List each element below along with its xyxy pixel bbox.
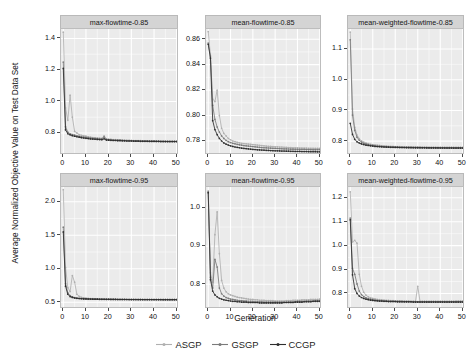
y-tick-label: 0.8 [318, 137, 342, 144]
x-tick-mark [394, 308, 395, 311]
gridlines [61, 187, 178, 308]
x-tick-label: 10 [220, 313, 240, 320]
y-tick-label: 1.1 [318, 217, 342, 224]
y-tick-mark [344, 48, 347, 49]
x-tick-label: 40 [429, 159, 449, 166]
x-tick-label: 20 [242, 159, 262, 166]
plot-canvas [206, 187, 321, 308]
x-tick-mark [207, 154, 208, 157]
x-tick-mark [274, 154, 275, 157]
legend-item-gsgp[interactable]: GSGP [212, 339, 258, 350]
x-tick-mark [349, 308, 350, 311]
y-tick-mark [344, 197, 347, 198]
y-tick-mark [202, 140, 205, 141]
plot-canvas [61, 187, 178, 308]
y-tick-mark [202, 245, 205, 246]
panel-title: max-flowtime-0.95 [60, 173, 178, 186]
x-tick-mark [439, 154, 440, 157]
x-tick-mark [274, 308, 275, 311]
x-tick-label: 10 [362, 313, 382, 320]
x-tick-mark [319, 154, 320, 157]
chart-legend: ASGPGSGPCCGP [0, 336, 472, 352]
panel-title: mean-weighted-flowtime-0.95 [347, 173, 464, 186]
legend-label: ASGP [175, 339, 201, 350]
y-tick-mark [202, 207, 205, 208]
y-tick-mark [57, 132, 60, 133]
x-tick-mark [252, 154, 253, 157]
x-tick-label: 0 [197, 313, 217, 320]
y-tick-mark [202, 64, 205, 65]
x-tick-label: 20 [242, 313, 262, 320]
gridlines [206, 187, 321, 308]
gridlines [348, 29, 464, 154]
x-tick-mark [462, 308, 463, 311]
x-tick-label: 40 [286, 159, 306, 166]
y-tick-label: 0.8 [35, 128, 55, 135]
x-tick-label: 40 [143, 313, 163, 320]
x-tick-mark [207, 308, 208, 311]
y-tick-mark [344, 140, 347, 141]
y-tick-label: 1.0 [35, 97, 55, 104]
y-tick-label: 0.86 [177, 35, 200, 42]
x-tick-mark [439, 308, 440, 311]
x-tick-label: 50 [166, 159, 186, 166]
y-tick-mark [344, 109, 347, 110]
x-tick-mark [319, 308, 320, 311]
y-tick-label: 0.9 [318, 265, 342, 272]
x-tick-label: 20 [384, 313, 404, 320]
x-tick-label: 0 [52, 159, 72, 166]
y-tick-label: 0.9 [177, 241, 200, 248]
y-axis-label: Average Normalized Objective Value on Te… [8, 8, 24, 318]
legend-item-asgp[interactable]: ASGP [156, 339, 201, 350]
x-tick-mark [130, 308, 131, 311]
panel-title: mean-flowtime-0.85 [205, 15, 321, 28]
x-tick-label: 30 [264, 313, 284, 320]
legend-item-ccgp[interactable]: CCGP [270, 339, 316, 350]
x-tick-label: 50 [452, 313, 472, 320]
plot-canvas [348, 187, 464, 308]
y-tick-mark [344, 245, 347, 246]
y-tick-label: 0.78 [177, 136, 200, 143]
y-tick-label: 0.8 [318, 289, 342, 296]
y-tick-label: 1.0 [318, 241, 342, 248]
x-tick-label: 0 [339, 159, 359, 166]
y-tick-mark [57, 234, 60, 235]
gridlines [206, 29, 321, 154]
chart-panel: mean-weighted-flowtime-0.85 [347, 15, 464, 154]
x-tick-mark [108, 308, 109, 311]
y-tick-label: 1.2 [318, 193, 342, 200]
x-tick-label: 20 [98, 159, 118, 166]
y-tick-label: 1.5 [35, 231, 55, 238]
x-tick-label: 50 [309, 159, 329, 166]
y-tick-mark [57, 201, 60, 202]
x-tick-mark [296, 154, 297, 157]
legend-label: CCGP [289, 339, 316, 350]
x-tick-label: 40 [286, 313, 306, 320]
x-tick-mark [417, 308, 418, 311]
panel-title: mean-flowtime-0.95 [205, 173, 321, 186]
y-tick-label: 0.82 [177, 85, 200, 92]
y-tick-label: 0.80 [177, 111, 200, 118]
chart-panel: max-flowtime-0.85 [60, 15, 178, 154]
plot-canvas [206, 29, 321, 154]
x-tick-mark [62, 308, 63, 311]
legend-key-icon [212, 340, 228, 349]
y-tick-mark [344, 269, 347, 270]
y-tick-label: 0.84 [177, 60, 200, 67]
x-tick-label: 40 [143, 159, 163, 166]
gridlines [348, 187, 464, 308]
y-tick-mark [57, 37, 60, 38]
y-tick-mark [344, 79, 347, 80]
y-tick-label: 1.0 [177, 203, 200, 210]
y-tick-mark [57, 268, 60, 269]
x-tick-mark [85, 154, 86, 157]
plot-area [347, 28, 464, 154]
y-tick-mark [202, 115, 205, 116]
chart-panel: mean-flowtime-0.85 [205, 15, 321, 154]
y-tick-label: 1.2 [35, 65, 55, 72]
y-tick-label: 0.9 [318, 106, 342, 113]
panel-title: mean-weighted-flowtime-0.85 [347, 15, 464, 28]
y-tick-label: 1.4 [35, 34, 55, 41]
x-tick-label: 10 [75, 313, 95, 320]
x-tick-mark [62, 154, 63, 157]
